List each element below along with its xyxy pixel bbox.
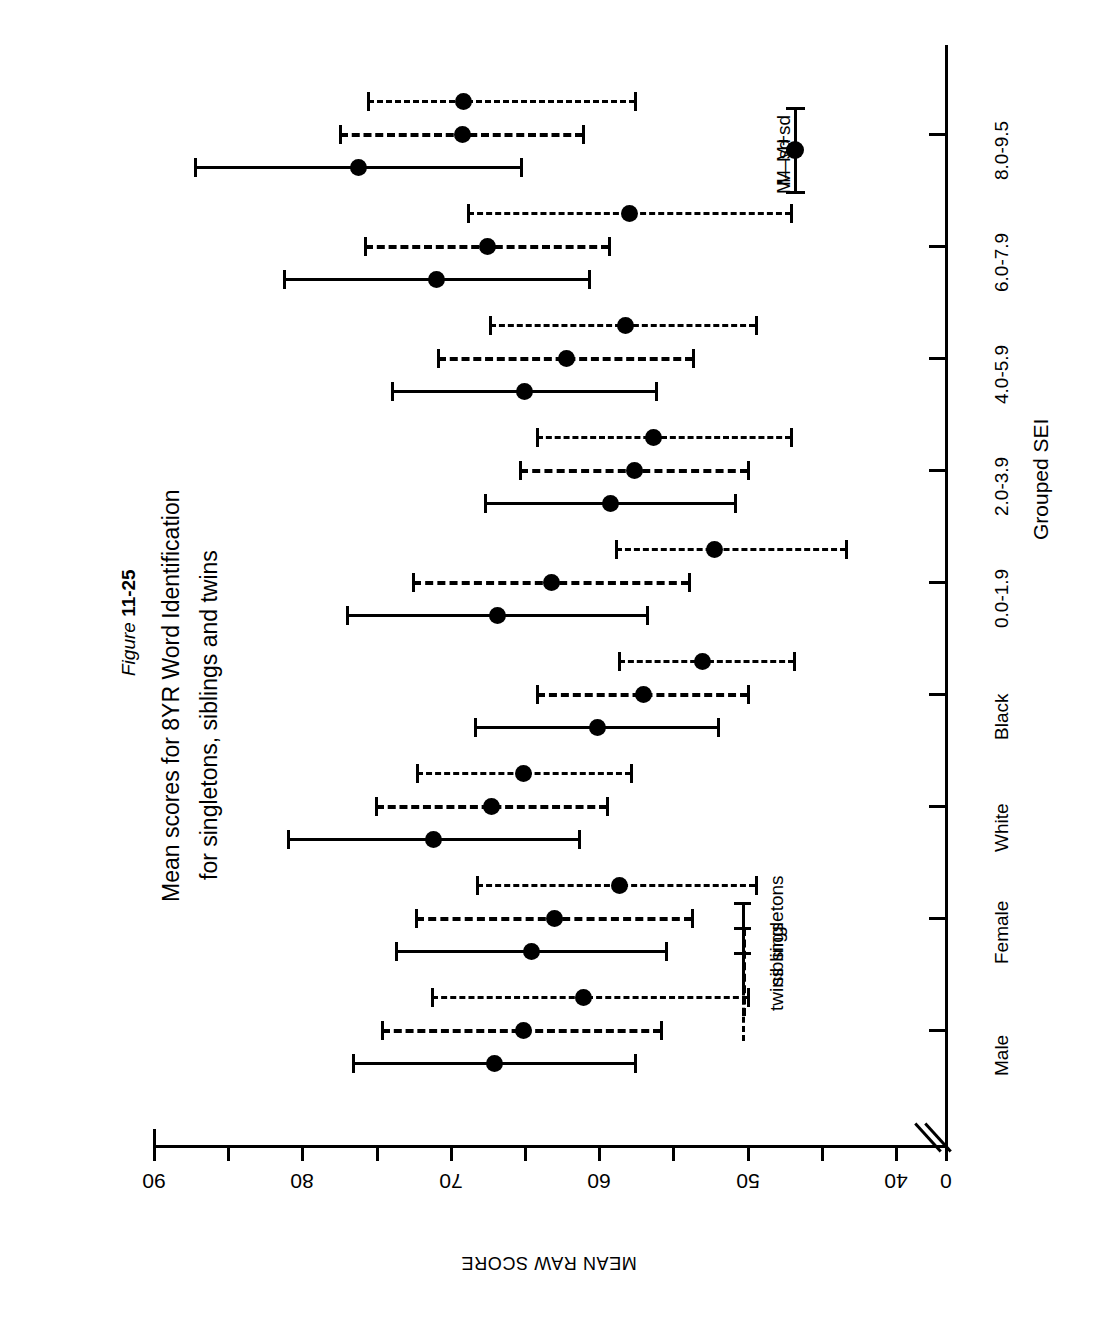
mean-marker	[455, 93, 472, 110]
error-bar-cap-upper	[412, 573, 415, 592]
error-bar-row	[0, 245, 1098, 248]
mean-marker	[515, 765, 532, 782]
legend-cap-twins	[734, 952, 751, 955]
error-bar-cap-upper	[519, 461, 522, 480]
category-label: 0.0-1.9	[991, 569, 1013, 628]
error-bar-row	[0, 100, 1098, 103]
error-bar-cap-upper	[364, 237, 367, 256]
category-label: 2.0-3.9	[991, 457, 1013, 516]
error-bar-cap-lower	[755, 876, 758, 895]
marker-legend-lower-label: M—sd	[773, 139, 795, 194]
value-tick-zero	[945, 1145, 948, 1161]
chart-title-line1: Mean scores for 8YR Word Identification	[158, 490, 185, 902]
chart-title-line2: for singletons, siblings and twins	[196, 550, 223, 880]
error-bar-row	[0, 1029, 1098, 1032]
error-bar-row	[0, 436, 1098, 439]
mean-marker	[523, 943, 540, 960]
error-bar-cap-lower	[790, 428, 793, 447]
error-bar-cap-upper	[484, 494, 487, 513]
value-tick	[153, 1145, 156, 1161]
error-bar-cap-lower	[634, 92, 637, 111]
error-bar-row	[0, 212, 1098, 215]
value-tick-label-zero: 0	[926, 1169, 966, 1193]
error-bar-cap-upper	[476, 876, 479, 895]
error-bar-cap-upper	[283, 270, 286, 289]
legend-label-twins[interactable]: twins	[766, 968, 788, 1011]
value-tick	[598, 1145, 601, 1161]
mean-marker	[626, 462, 643, 479]
error-bar-cap-lower	[606, 797, 609, 816]
error-bar-cap-upper	[416, 764, 419, 783]
error-bar-cap-upper	[391, 382, 394, 401]
value-tick-label: 80	[282, 1169, 322, 1193]
value-axis-label: MEAN RAW SCORE	[369, 1252, 729, 1273]
error-bar-cap-lower	[793, 652, 796, 671]
value-tick	[376, 1145, 379, 1161]
error-bar-cap-lower	[660, 1021, 663, 1040]
error-bar-cap-upper	[467, 204, 470, 223]
error-bar-cap-lower	[520, 158, 523, 177]
error-bar-cap-upper	[346, 606, 349, 625]
error-bar-cap-lower	[608, 237, 611, 256]
error-bar-line	[368, 100, 635, 103]
error-bar-cap-lower	[646, 606, 649, 625]
value-axis-label-text: MEAN RAW SCORE	[461, 1252, 637, 1273]
error-bar-cap-lower	[747, 461, 750, 480]
legend-cap-singletons	[734, 902, 751, 905]
error-bar-cap-upper	[536, 685, 539, 704]
figure-label-prefix: Figure	[118, 617, 139, 676]
error-bar-cap-lower	[588, 270, 591, 289]
error-bar-cap-upper	[618, 652, 621, 671]
error-bar-row	[0, 996, 1098, 999]
error-bar-cap-upper	[489, 316, 492, 335]
mean-marker	[611, 877, 628, 894]
error-bar-cap-lower	[747, 685, 750, 704]
mean-marker	[575, 989, 592, 1006]
error-bar-cap-upper	[431, 988, 434, 1007]
value-tick-label: 90	[134, 1169, 174, 1193]
error-bar-cap-lower	[582, 125, 585, 144]
value-tick	[895, 1145, 898, 1161]
error-bar-cap-lower	[665, 942, 668, 961]
error-bar-cap-lower	[578, 830, 581, 849]
value-tick	[450, 1145, 453, 1161]
value-tick	[301, 1145, 304, 1161]
value-axis-line	[153, 1145, 945, 1148]
error-bar-cap-lower	[790, 204, 793, 223]
error-bar-line	[616, 548, 846, 551]
mean-marker	[486, 1055, 503, 1072]
mean-marker	[350, 159, 367, 176]
category-axis-label: Grouped SEI	[1029, 419, 1053, 540]
category-label: 6.0-7.9	[991, 233, 1013, 292]
error-bar-row	[0, 133, 1098, 136]
error-bar-row	[0, 469, 1098, 472]
mean-marker	[546, 910, 563, 927]
error-bar-cap-upper	[339, 125, 342, 144]
error-bar-cap-lower	[717, 718, 720, 737]
mean-marker	[645, 429, 662, 446]
value-axis-end-cap	[153, 1129, 156, 1145]
mean-marker	[483, 798, 500, 815]
error-bar-cap-upper	[536, 428, 539, 447]
error-bar-row	[0, 1062, 1098, 1065]
mean-marker	[602, 495, 619, 512]
error-bar-row	[0, 390, 1098, 393]
error-bar-row	[0, 950, 1098, 953]
mean-marker	[479, 238, 496, 255]
mean-marker	[428, 271, 445, 288]
category-label: Black	[991, 694, 1013, 740]
value-tick	[747, 1145, 750, 1161]
figure-label: Figure 11-25	[118, 569, 140, 676]
value-tick	[524, 1145, 527, 1161]
mean-marker	[425, 831, 442, 848]
value-tick	[672, 1145, 675, 1161]
value-tick-label: 60	[579, 1169, 619, 1193]
category-label: Female	[991, 901, 1013, 964]
error-bar-cap-lower	[692, 349, 695, 368]
mean-marker	[706, 541, 723, 558]
mean-marker	[515, 1022, 532, 1039]
error-bar-cap-upper	[615, 540, 618, 559]
category-label: 8.0-9.5	[991, 121, 1013, 180]
error-bar-cap-upper	[395, 942, 398, 961]
mean-marker	[589, 719, 606, 736]
